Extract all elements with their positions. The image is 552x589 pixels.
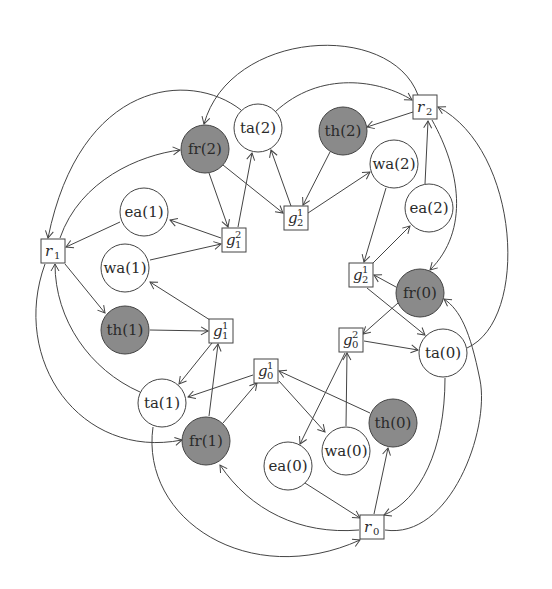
node-wa1: wa(1): [101, 244, 149, 292]
node-label: wa(0): [324, 442, 367, 460]
factor-subscript: 0: [373, 526, 379, 537]
edge-g12-to-ea1: [170, 220, 221, 238]
factor-label: g12: [226, 229, 241, 250]
edge-fr2-to-g21a: [223, 165, 283, 213]
node-ta1: ta(1): [138, 379, 186, 427]
edge-ea2-to-r2: [425, 121, 428, 184]
factor-label: g01: [258, 360, 273, 381]
node-label: ea(2): [409, 199, 448, 217]
edge-fr0-to-g02: [363, 303, 398, 334]
factor-superscript: 2: [352, 329, 358, 340]
edge-fr1-to-g11: [209, 344, 218, 416]
factor-label: g11: [213, 320, 228, 341]
edge-r1-to-th1: [65, 264, 105, 313]
edge-r2-to-fr2: [204, 45, 418, 124]
node-label: ea(1): [124, 203, 163, 221]
factor-subscript: 1: [54, 250, 60, 261]
edge-g11-to-wa1: [150, 282, 210, 320]
factor-graph-diagram: fr(2)ta(2)th(2)wa(2)ea(2)fr(0)ta(0)th(0)…: [0, 0, 552, 589]
edge-th1-to-g11: [150, 330, 208, 331]
edge-g02-to-ta0: [364, 341, 418, 350]
node-label: ta(0): [425, 344, 461, 362]
node-label: fr(1): [189, 432, 223, 450]
factor-superscript: 1: [297, 207, 303, 218]
edge-g01-to-ta1: [188, 375, 253, 397]
node-fr2: fr(2): [181, 125, 229, 173]
factor-superscript: 1: [362, 264, 368, 275]
edge-ta0-to-r2: [438, 107, 508, 348]
factor-label: g21: [353, 264, 368, 285]
factor-subscript: 2: [362, 274, 368, 285]
factor-subscript: 1: [235, 239, 241, 250]
edge-r2-to-th2: [367, 112, 413, 127]
edge-wa2-to-g21b: [364, 188, 386, 262]
edge-fr1-to-g01: [223, 383, 257, 423]
edge-wa0-to-g02: [346, 353, 347, 426]
node-label: th(0): [375, 414, 412, 432]
edge-r0-to-th0: [374, 448, 388, 514]
node-ea1: ea(1): [120, 188, 168, 236]
node-fr1: fr(1): [182, 417, 230, 465]
node-label: wa(2): [372, 155, 415, 173]
edge-th0-to-g01: [279, 371, 370, 413]
edge-g11-to-ta1: [179, 343, 212, 384]
factor-g01: g01: [254, 359, 278, 383]
factor-superscript: 1: [267, 360, 273, 371]
edge-th2-to-g21a: [303, 152, 330, 205]
factor-subscript: 2: [297, 217, 303, 228]
node-th2: th(2): [319, 107, 367, 155]
edge-ea0-to-r0: [305, 483, 360, 518]
factor-r0: r0: [360, 515, 384, 539]
node-wa0: wa(0): [322, 427, 370, 475]
factor-g21a: g21: [284, 206, 308, 230]
node-wa2: wa(2): [370, 140, 418, 188]
node-label: wa(1): [103, 259, 146, 277]
factor-g11: g11: [209, 319, 233, 343]
factor-superscript: 1: [222, 320, 228, 331]
edge-g21a-to-wa2: [308, 172, 370, 213]
node-label: fr(2): [188, 140, 222, 158]
node-label: ea(0): [268, 457, 307, 475]
factor-label: g21: [288, 207, 303, 228]
factor-r2: r2: [413, 95, 437, 119]
node-ea0: ea(0): [264, 442, 312, 490]
node-label: ta(2): [240, 119, 276, 137]
factor-g21b: g21: [349, 263, 373, 287]
node-th1: th(1): [101, 306, 149, 354]
factor-g02: g02: [339, 328, 363, 352]
node-fr0: fr(0): [396, 269, 444, 317]
node-label: fr(0): [403, 284, 437, 302]
node-ea2: ea(2): [405, 184, 453, 232]
factor-subscript: 1: [222, 330, 228, 341]
factor-subscript: 0: [267, 370, 273, 381]
factor-r1: r1: [41, 239, 65, 263]
node-label: ta(1): [144, 394, 180, 412]
node-label: th(2): [325, 122, 362, 140]
node-th0: th(0): [369, 399, 417, 447]
factor-superscript: 2: [235, 229, 241, 240]
factor-label: g02: [343, 329, 358, 350]
edge-fr0-to-g21b: [374, 275, 396, 287]
edge-ea1-to-r1: [66, 222, 120, 247]
factor-subscript: 2: [426, 106, 432, 117]
edge-g21a-to-ta2: [271, 150, 291, 206]
edge-wa1-to-g12: [150, 244, 221, 260]
factor-subscript: 0: [352, 339, 358, 350]
edge-g12-to-ta2: [238, 153, 252, 227]
node-label: th(1): [107, 321, 144, 339]
node-ta0: ta(0): [419, 329, 467, 377]
edge-g21b-to-ea2: [372, 226, 410, 264]
edge-fr2-to-g12: [209, 173, 228, 227]
node-ta2: ta(2): [234, 104, 282, 152]
factor-g12: g12: [222, 228, 246, 252]
